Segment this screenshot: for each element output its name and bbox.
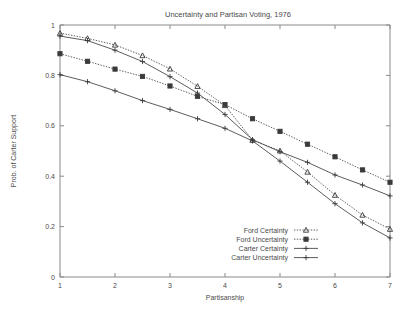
data-marker-triangle [140, 53, 145, 58]
data-marker-plus [387, 193, 392, 198]
y-axis-title: Prob. of Carter Support [10, 115, 18, 187]
data-marker-plus [112, 48, 117, 53]
data-marker-plus [305, 160, 310, 165]
chart-title-group: Uncertainty and Partisan Voting, 1976 [165, 10, 291, 19]
series-ford-uncertainty [58, 52, 392, 185]
data-marker-square [360, 168, 364, 172]
data-marker-plus [277, 149, 282, 154]
x-axis-title: Partisanship [206, 294, 245, 302]
data-marker-square [250, 117, 254, 121]
series-path [60, 54, 390, 183]
data-marker-triangle [332, 193, 337, 198]
data-marker-plus [85, 79, 90, 84]
data-marker-square [278, 129, 282, 133]
data-marker-triangle [167, 66, 172, 71]
legend-label-3: Carter Uncertainty [231, 254, 288, 262]
axes-group: 00.20.40.60.811234567PartisanshipProb. o… [10, 22, 392, 303]
data-marker-plus [57, 72, 62, 77]
x-tick-label: 3 [168, 282, 172, 289]
series-carter-uncertainty [57, 33, 392, 198]
x-tick-label: 7 [388, 282, 392, 289]
data-marker-square [388, 180, 392, 184]
data-marker-triangle [305, 169, 310, 174]
y-tick-label: 1 [51, 22, 55, 29]
data-marker-square [304, 237, 308, 241]
data-marker-square [305, 142, 309, 146]
legend-label-0: Ford Certainty [244, 227, 289, 235]
data-marker-plus [222, 126, 227, 131]
data-marker-plus [140, 59, 145, 64]
y-tick-label: 0.8 [45, 72, 55, 79]
y-tick-label: 0.2 [45, 223, 55, 230]
series-group [57, 30, 392, 240]
data-marker-plus [360, 220, 365, 225]
data-marker-plus [303, 246, 308, 251]
y-tick-label: 0 [51, 274, 55, 281]
data-marker-plus [332, 172, 337, 177]
series-path [60, 75, 390, 238]
x-tick-label: 4 [223, 282, 227, 289]
chart-legend: Ford CertaintyFord UncertaintyCarter Cer… [231, 227, 318, 263]
y-tick-label: 0.4 [45, 173, 55, 180]
data-marker-square [113, 67, 117, 71]
data-marker-plus [167, 107, 172, 112]
x-tick-label: 1 [58, 282, 62, 289]
data-marker-plus [360, 182, 365, 187]
data-marker-square [333, 155, 337, 159]
x-tick-label: 6 [333, 282, 337, 289]
legend-label-2: Carter Certainty [239, 245, 289, 253]
data-marker-plus [195, 116, 200, 121]
chart-title: Uncertainty and Partisan Voting, 1976 [165, 10, 291, 19]
y-tick-label: 0.6 [45, 122, 55, 129]
legend-label-1: Ford Uncertainty [236, 236, 288, 244]
chart-figure: Uncertainty and Partisan Voting, 1976 00… [0, 0, 412, 312]
data-marker-square [223, 103, 227, 107]
data-marker-square [58, 52, 62, 56]
data-marker-square [140, 74, 144, 78]
data-marker-plus [387, 235, 392, 240]
data-marker-plus [167, 74, 172, 79]
chart-canvas: Uncertainty and Partisan Voting, 1976 00… [0, 0, 412, 312]
data-marker-square [85, 59, 89, 63]
x-tick-label: 5 [278, 282, 282, 289]
data-marker-plus [112, 88, 117, 93]
data-marker-plus [140, 98, 145, 103]
data-marker-plus [303, 255, 308, 260]
series-path [60, 33, 390, 229]
data-marker-triangle [360, 212, 365, 217]
series-carter-certainty [57, 72, 392, 240]
data-marker-square [168, 84, 172, 88]
x-tick-label: 2 [113, 282, 117, 289]
